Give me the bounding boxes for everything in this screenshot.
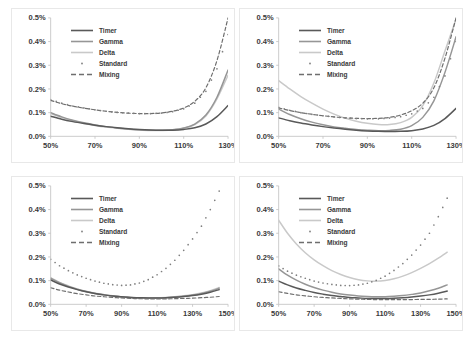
data-point-marker [278,107,280,109]
y-axis-tick-label: 0.5% [257,181,274,190]
chart-panel-top-left: 0.0%0.1%0.2%0.3%0.4%0.5%50%70%90%110%130… [11,8,235,163]
legend-label: Gamma [327,206,351,213]
data-point-marker [444,75,446,77]
data-point-marker [367,118,369,120]
data-point-marker [405,114,407,116]
y-axis-tick-label: 0.3% [29,61,46,70]
legend-label: Delta [327,217,343,224]
data-point-marker [361,118,363,120]
data-point-marker [214,199,216,201]
series-line-timer [51,280,220,298]
chart-panel-bottom-right: 0.0%0.1%0.2%0.3%0.4%0.5%50%70%90%110%130… [239,176,463,331]
legend-label: Mixing [327,239,348,246]
data-point-marker [155,113,157,115]
data-point-marker [50,258,52,260]
data-point-marker [344,285,346,287]
line-solid-light-icon [298,216,322,225]
x-axis-tick-label: 130% [411,309,431,318]
line-solid-light-icon [298,48,322,57]
data-point-marker [309,279,311,281]
line-solid-dark-icon [70,26,94,35]
data-point-marker [81,276,83,278]
data-point-marker [94,109,96,111]
data-point-marker [291,272,293,274]
data-point-marker [378,118,380,120]
x-axis-tick-label: 90% [114,309,129,318]
x-axis-tick-label: 70% [79,309,94,318]
y-axis-tick-label: 0.1% [29,108,46,117]
data-point-marker [422,108,424,110]
data-point-marker [400,116,402,118]
data-point-marker [367,282,369,284]
data-point-marker [196,232,198,234]
x-axis-tick-label: 90% [342,309,357,318]
data-point-marker [183,249,185,251]
data-point-marker [429,232,431,234]
x-axis-tick-label: 150% [218,309,234,318]
legend-row: Mixing [298,70,355,79]
data-point-marker [199,96,201,98]
x-axis-tick-label: 110% [402,141,421,150]
legend-top-right: Timer Gamma Delta Standard Mixing [298,26,355,79]
data-point-marker [322,282,324,284]
data-point-marker [349,285,351,287]
data-point-marker [205,217,207,219]
legend-label: Timer [99,27,117,34]
legend-row: Standard [70,59,127,68]
data-point-marker [66,104,68,106]
data-point-marker [174,259,176,261]
x-axis-tick-label: 50% [43,309,58,318]
y-axis-tick-label: 0.3% [257,229,274,238]
data-point-marker [72,272,74,274]
legend-label: Delta [327,49,343,56]
series-line-timer [51,106,228,131]
x-axis-tick-label: 70% [87,141,102,150]
data-point-marker [103,282,105,284]
data-point-marker [355,118,357,120]
data-point-marker [72,105,74,107]
data-point-marker [112,284,114,286]
data-point-marker [300,276,302,278]
data-point-marker [107,283,109,285]
data-point-marker [222,51,224,53]
data-point-marker [389,117,391,119]
data-point-marker [372,118,374,120]
data-point-marker [78,106,80,108]
data-point-marker [55,101,57,103]
data-point-marker [165,267,167,269]
legend-row: Delta [298,48,355,57]
y-axis-tick-label: 0.1% [257,276,274,285]
data-point-marker [304,277,306,279]
data-point-marker [287,270,289,272]
data-point-marker [50,99,52,101]
data-point-marker [415,249,417,251]
legend-label: Standard [99,228,127,235]
data-point-marker [296,274,298,276]
data-point-marker [178,254,180,256]
line-dashed-icon [298,70,322,79]
y-axis-tick-label: 0.0% [29,300,46,309]
marker-dot-icon [298,59,322,68]
y-axis-tick-label: 0.4% [257,37,274,46]
data-point-marker [127,112,129,114]
data-point-marker [313,280,315,282]
legend-row: Timer [70,26,127,35]
line-solid-dark-icon [298,26,322,35]
legend-bottom-left: Timer Gamma Delta Standard Mixing [70,194,127,247]
line-solid-dark-icon [298,194,322,203]
line-solid-dark-icon [70,194,94,203]
data-point-marker [339,117,341,119]
line-dashed-icon [70,70,94,79]
data-point-marker [389,272,391,274]
legend-top-left: Timer Gamma Delta Standard Mixing [70,26,127,79]
legend-row: Standard [70,227,127,236]
legend-label: Gamma [99,206,123,213]
data-point-marker [216,68,218,70]
data-point-marker [68,270,70,272]
data-point-marker [90,279,92,281]
legend-bottom-right: Timer Gamma Delta Standard Mixing [298,194,355,247]
data-point-marker [85,277,87,279]
data-point-marker [335,284,337,286]
data-point-marker [144,113,146,115]
y-axis-tick-label: 0.1% [29,276,46,285]
